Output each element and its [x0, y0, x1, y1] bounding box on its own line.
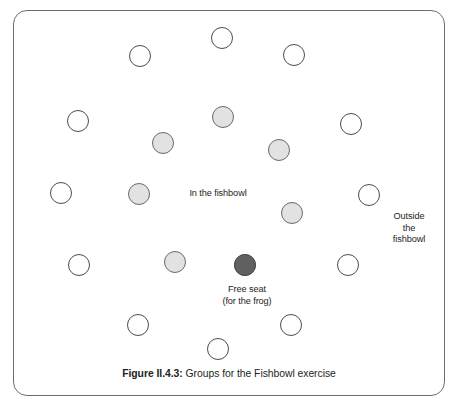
figure-caption: Figure II.4.3: Groups for the Fishbowl e… [13, 368, 445, 379]
figure-caption-text: Groups for the Fishbowl exercise [183, 368, 336, 379]
figure-border [13, 10, 445, 396]
label-free-seat: Free seat (for the frog) [196, 284, 298, 307]
figure-caption-number: Figure II.4.3: [122, 368, 183, 379]
label-outside-the-fishbowl: Outside the fishbowl [376, 211, 442, 246]
label-in-the-fishbowl: In the fishbowl [163, 188, 273, 200]
figure-container: In the fishbowl Outside the fishbowl Fre… [0, 0, 459, 416]
